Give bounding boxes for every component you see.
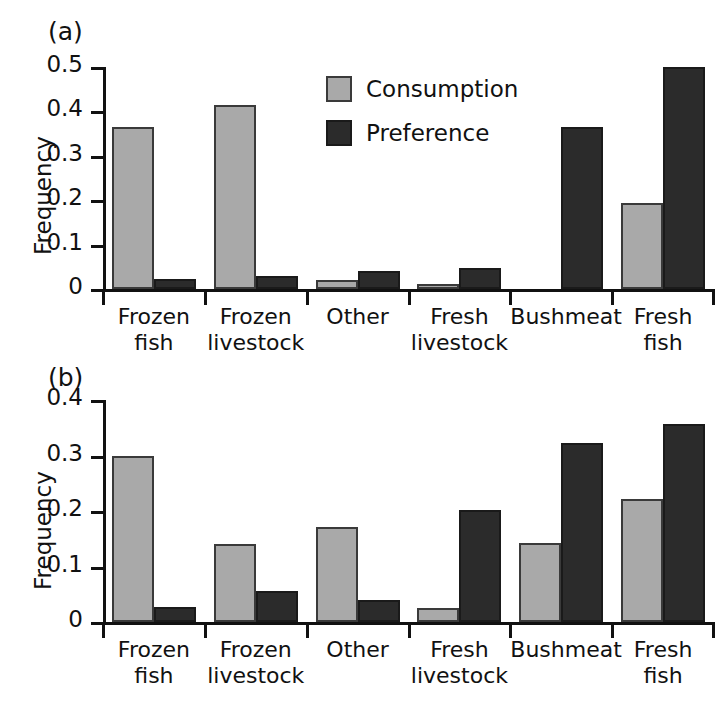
y-axis-tick — [91, 511, 103, 514]
bar-preference-frozen-fish — [154, 279, 196, 289]
bar-consumption-fresh-fish — [621, 499, 663, 622]
x-axis-category-label-line2: livestock — [409, 663, 511, 689]
y-axis-tick — [91, 400, 103, 403]
bar-preference-bushmeat — [561, 443, 603, 622]
x-axis-category-label: Bushmeat — [510, 637, 612, 663]
y-axis-tick-label: 0.4 — [13, 384, 83, 410]
x-axis-category-label-line1: Fresh — [612, 637, 714, 663]
x-axis-category-label: Other — [307, 304, 409, 330]
panel-a: (a) ConsumptionPreference 00.10.20.30.40… — [0, 0, 723, 360]
x-axis-category-label: Other — [307, 637, 409, 663]
bar-consumption-fresh-livestock — [417, 284, 459, 289]
x-axis-group-separator — [204, 289, 207, 305]
bar-preference-other — [358, 600, 400, 622]
y-axis-title: Frequency — [30, 471, 56, 590]
x-axis-category-label-line1: Fresh — [612, 304, 714, 330]
bar-preference-fresh-livestock — [459, 268, 501, 289]
x-axis-group-separator — [712, 622, 715, 638]
legend-swatch-consumption — [326, 76, 352, 102]
bar-preference-frozen-fish — [154, 607, 196, 622]
chart-legend: ConsumptionPreference — [326, 76, 586, 156]
x-axis-category-label: Frozenlivestock — [205, 304, 307, 356]
x-axis-category-label-line1: Frozen — [205, 637, 307, 663]
x-axis-group-separator — [408, 289, 411, 305]
x-axis-category-label-line2: fish — [103, 663, 205, 689]
legend-label-preference: Preference — [366, 120, 489, 146]
y-axis-tick — [91, 567, 103, 570]
y-axis-tick-label: 0.4 — [13, 95, 83, 121]
x-axis-group-separator — [102, 289, 105, 305]
x-axis-category-label-line1: Other — [307, 637, 409, 663]
bar-preference-fresh-fish — [663, 67, 705, 289]
x-axis-category-label-line1: Bushmeat — [510, 637, 612, 663]
x-axis-group-separator — [712, 289, 715, 305]
x-axis-category-label: Frozenfish — [103, 304, 205, 356]
legend-item-consumption: Consumption — [326, 76, 518, 102]
x-axis-group-separator — [408, 622, 411, 638]
x-axis-category-label: Frozenlivestock — [205, 637, 307, 689]
y-axis-tick — [91, 156, 103, 159]
x-axis-group-separator — [611, 622, 614, 638]
bar-preference-other — [358, 271, 400, 289]
bar-consumption-frozen-livestock — [214, 105, 256, 289]
x-axis-group-separator — [102, 622, 105, 638]
bar-consumption-other — [316, 280, 358, 289]
x-axis-group-separator — [306, 622, 309, 638]
x-axis-category-label-line1: Fresh — [409, 637, 511, 663]
bar-consumption-frozen-livestock — [214, 544, 256, 622]
y-axis-tick-label: 0 — [13, 606, 83, 632]
x-axis-category-label-line2: fish — [612, 663, 714, 689]
y-axis-tick — [91, 456, 103, 459]
x-axis-category-label: Freshlivestock — [409, 304, 511, 356]
x-axis-group-separator — [509, 289, 512, 305]
x-axis-category-label: Bushmeat — [510, 304, 612, 330]
x-axis-category-label-line1: Other — [307, 304, 409, 330]
x-axis-category-label-line1: Fresh — [409, 304, 511, 330]
x-axis-category-label-line2: livestock — [205, 663, 307, 689]
x-axis-category-label-line1: Frozen — [205, 304, 307, 330]
x-axis-category-label-line1: Bushmeat — [510, 304, 612, 330]
x-axis-category-label: Freshfish — [612, 637, 714, 689]
y-axis-tick-label: 0.5 — [13, 51, 83, 77]
bar-preference-frozen-livestock — [256, 276, 298, 289]
bar-consumption-frozen-fish — [112, 456, 154, 622]
panel-b: (b) 00.10.20.30.4FrequencyFrozenfishFroz… — [0, 353, 723, 713]
bar-consumption-bushmeat — [519, 543, 561, 622]
bar-preference-fresh-livestock — [459, 510, 501, 622]
y-axis-line — [103, 400, 106, 625]
bar-consumption-fresh-livestock — [417, 608, 459, 622]
x-axis-group-separator — [611, 289, 614, 305]
y-axis-tick — [91, 111, 103, 114]
bar-preference-frozen-livestock — [256, 591, 298, 622]
x-axis-group-separator — [306, 289, 309, 305]
y-axis-tick — [91, 67, 103, 70]
x-axis-category-label-line1: Frozen — [103, 637, 205, 663]
bar-preference-bushmeat — [561, 127, 603, 289]
y-axis-tick-label: 0 — [13, 273, 83, 299]
x-axis-category-label: Frozenfish — [103, 637, 205, 689]
bar-preference-fresh-fish — [663, 424, 705, 622]
y-axis-tick — [91, 245, 103, 248]
bar-consumption-fresh-fish — [621, 203, 663, 289]
x-axis-group-separator — [509, 622, 512, 638]
x-axis-category-label: Freshfish — [612, 304, 714, 356]
y-axis-line — [103, 67, 106, 292]
y-axis-tick — [91, 200, 103, 203]
y-axis-tick-label: 0.3 — [13, 440, 83, 466]
legend-label-consumption: Consumption — [366, 76, 518, 102]
legend-swatch-preference — [326, 120, 352, 146]
figure-bar-chart-consumption-preference: (a) ConsumptionPreference 00.10.20.30.40… — [0, 0, 723, 713]
x-axis-group-separator — [204, 622, 207, 638]
x-axis-category-label: Freshlivestock — [409, 637, 511, 689]
legend-item-preference: Preference — [326, 120, 489, 146]
bar-consumption-other — [316, 527, 358, 622]
panel-a-label: (a) — [48, 17, 83, 46]
bar-consumption-frozen-fish — [112, 127, 154, 289]
x-axis-category-label-line1: Frozen — [103, 304, 205, 330]
y-axis-title: Frequency — [30, 136, 56, 255]
